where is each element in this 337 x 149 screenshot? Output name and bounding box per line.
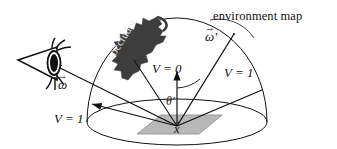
omega-prime-endpoint: [233, 33, 235, 35]
label-omega: → ω: [58, 78, 67, 91]
label-theta-prime: θ': [166, 95, 174, 107]
x-vector-group: → x: [174, 123, 180, 136]
label-visibility-one-right: V = 1: [224, 66, 253, 79]
label-visibility-zero: V = 0: [152, 62, 181, 75]
eyelash-lower-1: [46, 77, 52, 89]
omega-symbol: ω: [58, 78, 67, 91]
omega-prime-symbol: ω': [205, 30, 217, 43]
label-surface-point: → x: [174, 123, 180, 136]
eye-pupil: [50, 54, 58, 72]
ray-omega-prime: [177, 34, 234, 126]
label-omega-prime: → ω': [205, 30, 217, 43]
label-visibility-one-left: V = 1: [54, 112, 83, 125]
label-environment-map: environment map: [213, 10, 302, 23]
omega-vector-group: → ω: [58, 78, 67, 91]
figure-environment-map-diagram: environment map V = 0 V = 1 V = 1 θ' → ω…: [0, 0, 337, 149]
x-symbol: x: [174, 123, 180, 136]
eyelash-upper-3: [58, 47, 71, 50]
theta-prime-arc: [177, 79, 200, 88]
omega-prime-vector-group: → ω': [205, 30, 217, 43]
